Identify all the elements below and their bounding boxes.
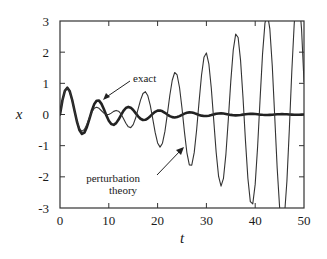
- x-tick-label: 20: [151, 213, 164, 228]
- y-tick-label: 1: [43, 76, 50, 91]
- annotation-perturbation-line2: theory: [109, 184, 138, 196]
- y-tick-label: -1: [38, 138, 49, 153]
- x-tick-label: 0: [57, 213, 64, 228]
- x-tick-labels: 01020304050: [57, 213, 311, 228]
- y-tick-label: 3: [43, 14, 50, 29]
- annotation-exact: exact: [133, 72, 156, 84]
- y-tick-label: -3: [38, 201, 49, 216]
- x-tick-label: 10: [102, 213, 115, 228]
- y-tick-label: 2: [43, 45, 50, 60]
- series-line-perturbation-theory: [60, 0, 304, 225]
- y-tick-labels: -3-2-10123: [38, 14, 49, 216]
- annotation-perturbation-line1: perturbation: [86, 172, 140, 184]
- y-tick-label: -2: [38, 169, 49, 184]
- annotation-perturbation-arrow: [157, 150, 181, 175]
- x-tick-label: 30: [200, 213, 213, 228]
- x-tick-label: 40: [249, 213, 262, 228]
- series-group: [60, 0, 304, 225]
- x-axis-label: t: [180, 230, 185, 246]
- annotation-exact-arrow: [105, 81, 130, 98]
- x-tick-label: 50: [298, 213, 311, 228]
- y-tick-label: 0: [43, 107, 50, 122]
- y-axis-label: x: [15, 106, 23, 122]
- chart: 01020304050 -3-2-10123 t x exact perturb…: [0, 0, 327, 259]
- annotation-exact-arrowhead: [103, 93, 110, 100]
